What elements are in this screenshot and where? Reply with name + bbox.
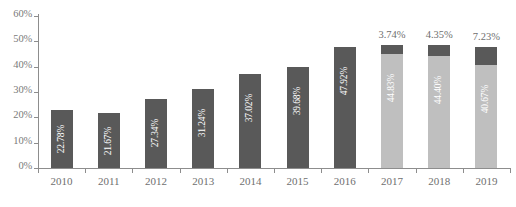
bar-segment-lower[interactable]: 47.92% — [334, 47, 356, 168]
bar-segment-upper[interactable] — [428, 45, 450, 56]
bar-value-label: 44.40% — [434, 75, 444, 104]
bar-2018[interactable]: 44.40%4.35% — [428, 45, 450, 169]
x-tick-mark — [416, 168, 417, 173]
x-tick-mark — [321, 168, 322, 173]
x-tick-mark — [180, 168, 181, 173]
y-tick-label: 10% — [13, 135, 32, 146]
bar-value-label: 40.67% — [482, 85, 492, 114]
x-tick-mark — [85, 168, 86, 173]
x-axis-label-2013: 2013 — [180, 175, 227, 187]
bar-2019[interactable]: 40.67%7.23% — [475, 47, 497, 168]
bar-value-label: 44.83% — [387, 74, 397, 103]
x-axis-label-2011: 2011 — [85, 175, 132, 187]
x-tick-mark — [274, 168, 275, 173]
bar-segment-lower[interactable]: 31.24% — [192, 89, 214, 168]
x-axis-label-2018: 2018 — [416, 175, 463, 187]
bar-value-label: 31.24% — [198, 109, 208, 138]
bar-value-label: 47.92% — [340, 66, 350, 95]
bar-segment-upper[interactable] — [475, 47, 497, 65]
y-tick-label: 20% — [13, 109, 32, 120]
bar-value-label: 27.34% — [151, 118, 161, 147]
bar-value-label: 22.78% — [57, 125, 67, 154]
bar-2010[interactable]: 22.78% — [51, 110, 73, 168]
bar-segment-lower[interactable]: 40.67% — [475, 65, 497, 168]
bar-value-label: 21.67% — [104, 126, 114, 155]
y-tick-label: 60% — [13, 8, 32, 19]
bar-segment-lower[interactable]: 44.83% — [381, 54, 403, 168]
bar-2012[interactable]: 27.34% — [145, 99, 167, 168]
bar-chart: 0%10%20%30%40%50%60% 2010201120122013201… — [0, 0, 516, 207]
x-tick-mark — [38, 168, 39, 173]
bar-segment-upper[interactable] — [381, 45, 403, 54]
bar-2011[interactable]: 21.67% — [98, 113, 120, 168]
bar-segment-lower[interactable]: 22.78% — [51, 110, 73, 168]
bar-value-label: 39.68% — [293, 87, 303, 116]
x-axis-label-2016: 2016 — [321, 175, 368, 187]
x-axis-label-2015: 2015 — [274, 175, 321, 187]
bar-2015[interactable]: 39.68% — [287, 67, 309, 168]
bar-value-label: 37.02% — [246, 94, 256, 123]
y-tick-label: 0% — [18, 160, 32, 171]
x-axis-label-2014: 2014 — [227, 175, 274, 187]
y-tick-label: 50% — [13, 33, 32, 44]
x-axis-label-2012: 2012 — [132, 175, 179, 187]
bar-2016[interactable]: 47.92% — [334, 47, 356, 168]
x-tick-mark — [227, 168, 228, 173]
y-tick-label: 30% — [13, 84, 32, 95]
plot-area: 22.78%21.67%27.34%31.24%37.02%39.68%47.9… — [38, 16, 510, 168]
bar-top-value-label: 4.35% — [426, 30, 453, 41]
x-tick-mark — [510, 168, 511, 173]
bar-top-value-label: 3.74% — [378, 30, 405, 41]
bar-segment-lower[interactable]: 21.67% — [98, 113, 120, 168]
x-tick-mark — [132, 168, 133, 173]
y-tick-label: 40% — [13, 59, 32, 70]
bar-2017[interactable]: 44.83%3.74% — [381, 45, 403, 168]
bar-segment-lower[interactable]: 37.02% — [239, 74, 261, 168]
bar-2013[interactable]: 31.24% — [192, 89, 214, 168]
bar-2014[interactable]: 37.02% — [239, 74, 261, 168]
bar-segment-lower[interactable]: 39.68% — [287, 67, 309, 168]
x-axis-label-2019: 2019 — [463, 175, 510, 187]
bar-segment-lower[interactable]: 27.34% — [145, 99, 167, 168]
x-axis-label-2010: 2010 — [38, 175, 85, 187]
bar-segment-lower[interactable]: 44.40% — [428, 56, 450, 168]
x-tick-mark — [463, 168, 464, 173]
x-axis-label-2017: 2017 — [368, 175, 415, 187]
x-tick-mark — [368, 168, 369, 173]
bar-top-value-label: 7.23% — [473, 32, 500, 43]
